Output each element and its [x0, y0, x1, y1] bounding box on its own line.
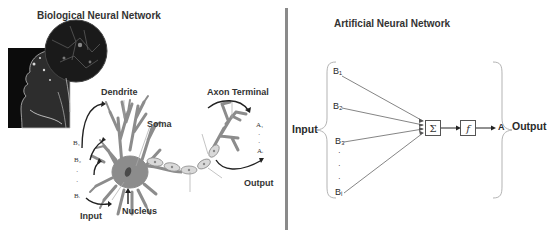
bio-input-bi: Bᵢ — [74, 192, 80, 200]
ann-input-bi: Bᵢ — [335, 187, 342, 197]
ann-output-a: A — [498, 122, 505, 132]
ann-input-dot: · — [338, 161, 341, 170]
label-bio-output: Output — [244, 178, 274, 188]
artificial-title: Artificial Neural Network — [334, 18, 450, 29]
ann-input-b3: B₃ — [335, 136, 345, 146]
bio-input-dot: · — [76, 168, 78, 176]
activation-function-node: f — [460, 120, 476, 136]
bio-input-b1: B₁ — [73, 139, 80, 147]
label-ann-output: Output — [512, 120, 546, 132]
ann-arrowheads — [419, 119, 424, 136]
section-divider — [285, 8, 288, 230]
label-dendrite: Dendrite — [101, 87, 138, 97]
bio-output-a1: A₁ — [256, 121, 264, 129]
label-nucleus: Nucleus — [122, 206, 157, 216]
bio-output-ai: Aᵢ — [257, 147, 263, 155]
label-soma: Soma — [147, 119, 172, 129]
label-bio-input: Input — [80, 211, 102, 221]
ann-input-dot: · — [338, 148, 341, 157]
label-ann-input: Input — [292, 123, 318, 135]
bio-input-b2: B₂ — [74, 156, 81, 164]
bio-output-dot: · — [258, 139, 260, 147]
input-brace — [317, 62, 336, 198]
label-axon-terminal: Axon Terminal — [207, 87, 269, 97]
neuron-illustration — [90, 96, 246, 214]
ann-input-dot: · — [338, 174, 341, 183]
ann-input-b2: B₂ — [333, 101, 343, 111]
bio-output-dot: · — [258, 131, 260, 139]
ann-input-b1: B₁ — [333, 66, 342, 76]
input-connections — [342, 76, 423, 193]
summation-node: Σ — [425, 120, 441, 136]
bio-input-dot: · — [76, 178, 78, 186]
